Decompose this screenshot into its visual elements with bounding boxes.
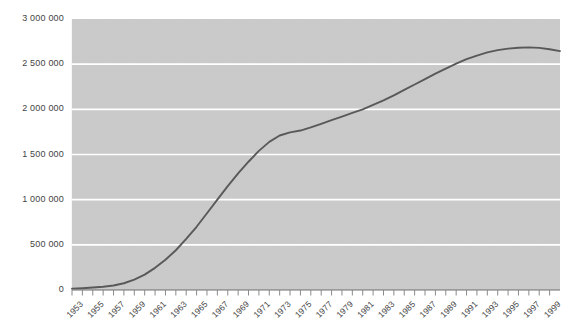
y-axis-tick-label: 500 000 (30, 239, 64, 249)
chart-canvas (0, 0, 578, 334)
y-axis-tick-label: 0 (59, 284, 64, 294)
y-axis-tick-label: 2 500 000 (22, 58, 64, 68)
y-axis-tick-label: 1 000 000 (22, 194, 64, 204)
line-chart: 0500 0001 000 0001 500 0002 000 0002 500… (0, 0, 578, 334)
x-axis-ticks (72, 290, 550, 296)
y-axis-tick-label: 1 500 000 (22, 149, 64, 159)
y-axis-tick-label: 3 000 000 (22, 13, 64, 23)
y-axis-tick-label: 2 000 000 (22, 103, 64, 113)
